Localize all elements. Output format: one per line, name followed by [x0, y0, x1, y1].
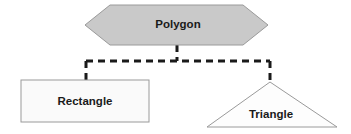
node-polygon[interactable]: Polygon [85, 5, 268, 45]
polygon-label: Polygon [155, 18, 200, 30]
node-triangle[interactable]: Triangle [207, 82, 337, 127]
diagram-canvas: Polygon Rectangle Triangle [0, 0, 351, 134]
rectangle-label: Rectangle [58, 95, 113, 107]
node-rectangle[interactable]: Rectangle [21, 80, 149, 122]
connector-group [86, 45, 270, 82]
triangle-shape[interactable] [207, 82, 337, 127]
diagram-svg: Polygon Rectangle Triangle [0, 0, 351, 134]
triangle-label: Triangle [249, 108, 293, 120]
